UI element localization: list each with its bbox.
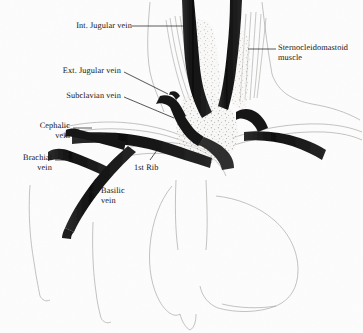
anatomical-figure: Int. Jugular vein Ext. Jugular vein Subc… (0, 0, 363, 333)
label-cephalic-vein: Cephalic vein (0, 121, 70, 140)
label-basilic-vein: Basilic vein (101, 186, 161, 205)
label-sternocleidomastoid-muscle: Sternocleidomastoid muscle (278, 43, 363, 62)
label-brachial-vein: Brachial vein (0, 153, 52, 172)
label-subclavian-vein: Subclavian vein (0, 91, 121, 101)
label-int-jugular-vein: Int. Jugular vein (0, 21, 132, 31)
label-ext-jugular-vein: Ext. Jugular vein (0, 66, 121, 76)
label-first-rib: 1st Rib (134, 163, 180, 173)
